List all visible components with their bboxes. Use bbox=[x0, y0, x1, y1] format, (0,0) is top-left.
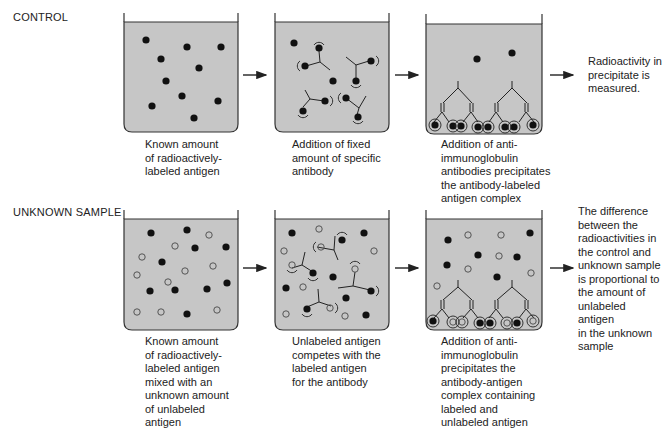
beaker-unknown-1 bbox=[124, 210, 238, 330]
beaker-control-1 bbox=[124, 13, 238, 132]
result-control: Radioactivity in precipitate is measured… bbox=[588, 55, 662, 96]
caption-unknown-step-1: Known amount of radioactively- labeled a… bbox=[145, 335, 229, 430]
caption-unknown-step-2: Unlabeled antigen competes with the labe… bbox=[292, 335, 381, 389]
beaker-unknown-3 bbox=[426, 210, 542, 330]
beaker-control-3 bbox=[426, 14, 542, 134]
result-unknown: The difference between the radioactiviti… bbox=[578, 205, 664, 354]
caption-control-step-3: Addition of anti- immunoglobulin antibod… bbox=[441, 138, 550, 206]
caption-control-step-2: Addition of fixed amount of specific ant… bbox=[292, 138, 381, 179]
caption-control-step-1: Known amount of radioactively- labeled a… bbox=[145, 138, 222, 179]
caption-unknown-step-3: Addition of anti- immunoglobulin precipi… bbox=[441, 335, 535, 430]
beaker-unknown-2 bbox=[275, 210, 389, 330]
beaker-control-2 bbox=[275, 13, 389, 132]
